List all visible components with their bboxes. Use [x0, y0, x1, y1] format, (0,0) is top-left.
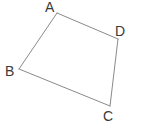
vertex-label-c: C [103, 109, 113, 123]
quadrilateral-drawing [0, 0, 143, 138]
edge-b-a [19, 13, 57, 69]
edge-d-c [110, 39, 118, 106]
edge-c-b [19, 69, 110, 106]
vertex-label-d: D [115, 24, 125, 38]
geometry-figure: A B C D [0, 0, 143, 138]
vertex-label-b: B [5, 64, 14, 78]
edge-a-d [57, 13, 118, 39]
vertex-label-a: A [45, 0, 54, 14]
